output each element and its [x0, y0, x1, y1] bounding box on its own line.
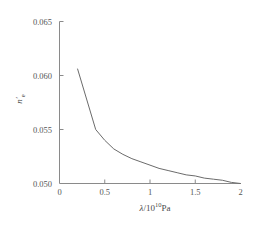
x-tick-label-1: 0.5 — [93, 187, 117, 197]
x-axis-unit: Pa — [161, 203, 170, 213]
y-axis-symbol: n — [14, 99, 24, 104]
y-tick-label-0: 0.065 — [18, 17, 52, 27]
plot-canvas — [0, 0, 259, 227]
x-tick-label-2: 1 — [138, 187, 162, 197]
x-tick-label-3: 1.5 — [183, 187, 207, 197]
y-axis-title: n′e — [14, 84, 24, 114]
y-tick-label-2: 0.055 — [18, 125, 52, 135]
data-series-line — [78, 69, 241, 183]
x-tick-label-0: 0 — [48, 187, 72, 197]
y-axis-subscript: e — [19, 94, 26, 97]
x-tick-label-4: 2 — [229, 187, 253, 197]
y-axis-prime: ′ — [14, 97, 24, 99]
chart-figure: 0.065 0.060 0.055 0.050 0 0.5 1 1.5 2 λ/… — [0, 0, 259, 227]
y-tick-label-1: 0.060 — [18, 71, 52, 81]
x-axis-base: /10 — [143, 203, 155, 213]
x-axis-title: λ/1010Pa — [100, 203, 210, 213]
